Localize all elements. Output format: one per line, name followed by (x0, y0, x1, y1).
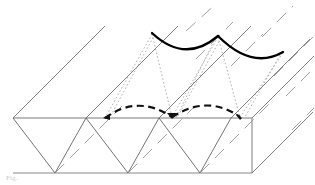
parallel-top-right (252, 56, 314, 118)
ridge-1 (13, 26, 105, 118)
catenary-left (152, 33, 218, 49)
crease-v-3 (159, 118, 231, 173)
figure-root: Fig. (0, 0, 315, 185)
parallel-dashed-5 (262, 6, 293, 37)
arc-node-markers (103, 113, 242, 120)
projector-a2 (110, 34, 155, 117)
bold-catenaries (152, 33, 283, 58)
ridge-3 (159, 26, 251, 118)
receding-parallels-solid (252, 56, 314, 173)
crease-v-2 (86, 118, 159, 173)
parallel-dashed-7 (196, 22, 233, 59)
parallel-dashed-6 (186, 3, 217, 31)
parallel-dashed-9 (286, 68, 314, 96)
node-marker-left (103, 114, 110, 120)
parallel-dashed-4 (274, 36, 314, 76)
projector-b3 (218, 37, 240, 117)
ridge-2 (86, 26, 178, 118)
parallel-bottom-right (252, 112, 313, 173)
ridge-far-back (105, 26, 152, 33)
figure-caption: Fig. (6, 174, 18, 182)
diagram-canvas (0, 0, 315, 185)
dashed-arc-right (172, 106, 240, 118)
node-marker-right (235, 113, 242, 120)
projector-a3 (152, 34, 172, 117)
projector-c1 (240, 53, 283, 117)
front-face-creases (13, 118, 231, 173)
ridge-4 (231, 39, 310, 118)
crease-v-1 (13, 118, 86, 173)
parallel-dashed-10 (292, 108, 314, 130)
receding-parallels-dashed (55, 3, 314, 173)
catenary-right (218, 36, 283, 58)
